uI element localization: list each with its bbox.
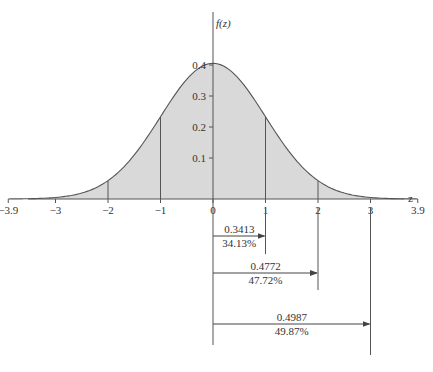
- annotation-percent: 49.87%: [275, 325, 309, 337]
- probability-annotations: 0.341334.13%0.477247.72%0.498749.87%: [213, 207, 371, 355]
- x-tick-label: −3.9: [0, 204, 19, 216]
- x-tick-label: −2: [102, 204, 114, 216]
- x-tick-label: −1: [155, 204, 167, 216]
- y-tick-label: 0.2: [192, 121, 206, 133]
- annotation-percent: 34.13%: [222, 237, 256, 249]
- y-tick-label: 0.4: [192, 59, 206, 71]
- x-ticks: −3.9−3−2−101233.9: [0, 199, 425, 216]
- x-tick-label: 0: [210, 204, 216, 216]
- y-tick-label: 0.3: [192, 90, 206, 102]
- y-axis-label: f(z): [216, 17, 231, 30]
- x-tick-label: 3.9: [411, 204, 425, 216]
- annotation-percent: 47.72%: [249, 274, 283, 286]
- annotation-probability: 0.4772: [250, 260, 280, 272]
- normal-distribution-diagram: f(z) z −3.9−3−2−101233.9 0.10.20.30.4 0.…: [0, 0, 433, 372]
- x-axis-label: z: [408, 192, 413, 204]
- y-tick-label: 0.1: [192, 152, 206, 164]
- annotation-probability: 0.3413: [224, 223, 255, 235]
- annotation-probability: 0.4987: [277, 311, 308, 323]
- x-tick-label: −3: [50, 204, 62, 216]
